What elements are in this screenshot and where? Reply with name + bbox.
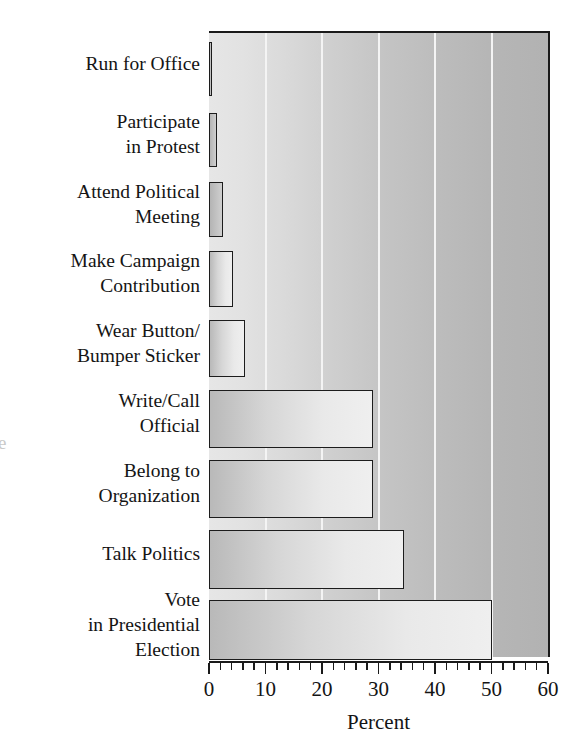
category-label-line: Participate	[0, 109, 200, 134]
x-tick-major	[208, 663, 210, 674]
bar	[209, 113, 217, 167]
x-tick-major	[434, 663, 436, 674]
x-tick-label: 0	[204, 676, 215, 702]
bar	[209, 600, 492, 660]
x-tick-label: 30	[368, 676, 389, 702]
category-label-line: Bumper Sticker	[0, 343, 200, 368]
gridline-40	[434, 33, 436, 657]
x-tick-minor	[231, 663, 233, 670]
category-label-line: Run for Office	[0, 51, 200, 76]
category-label: Belong toOrganization	[0, 458, 200, 508]
x-tick-minor	[479, 663, 481, 670]
x-tick-minor	[400, 663, 402, 670]
category-label: Participatein Protest	[0, 109, 200, 159]
category-label-line: in Presidential	[0, 612, 200, 637]
x-tick-major	[265, 663, 267, 674]
category-label-line: Organization	[0, 483, 200, 508]
category-label-line: Belong to	[0, 458, 200, 483]
x-tick-major	[378, 663, 380, 674]
category-label-line: Write/Call	[0, 388, 200, 413]
x-tick-label: 10	[255, 676, 276, 702]
category-label: Attend PoliticalMeeting	[0, 179, 200, 229]
x-tick-minor	[333, 663, 335, 670]
category-label-line: in Protest	[0, 134, 200, 159]
x-tick-minor	[253, 663, 255, 670]
x-tick-label: 50	[481, 676, 502, 702]
category-label-line: Contribution	[0, 273, 200, 298]
x-tick-minor	[412, 663, 414, 670]
category-label-line: Wear Button/	[0, 318, 200, 343]
x-axis-title: Percent	[0, 710, 573, 735]
x-tick-minor	[513, 663, 515, 670]
category-label: Run for Office	[0, 51, 200, 76]
x-tick-minor	[287, 663, 289, 670]
x-tick-label: 40	[425, 676, 446, 702]
x-tick-label: 60	[538, 676, 559, 702]
category-label: Wear Button/Bumper Sticker	[0, 318, 200, 368]
category-label: Write/CallOfficial	[0, 388, 200, 438]
category-label-line: Attend Political	[0, 179, 200, 204]
x-tick-major	[491, 663, 493, 674]
x-tick-minor	[502, 663, 504, 670]
x-tick-major	[321, 663, 323, 674]
bar	[209, 182, 223, 237]
x-tick-minor	[242, 663, 244, 670]
x-tick-label: 20	[312, 676, 333, 702]
bar	[209, 460, 373, 518]
x-tick-minor	[355, 663, 357, 670]
x-tick-minor	[457, 663, 459, 670]
category-label-line: Official	[0, 413, 200, 438]
bar	[209, 390, 373, 448]
x-tick-minor	[344, 663, 346, 670]
x-tick-minor	[299, 663, 301, 670]
x-tick-minor	[389, 663, 391, 670]
x-tick-minor	[446, 663, 448, 670]
plot-area	[209, 31, 550, 657]
bar	[209, 320, 245, 377]
x-axis-title-text: Percent	[347, 710, 410, 735]
x-tick-minor	[310, 663, 312, 670]
category-label: Votein PresidentialElection	[0, 587, 200, 662]
category-label: Make CampaignContribution	[0, 248, 200, 298]
category-label: Talk Politics	[0, 541, 200, 566]
bar	[209, 530, 404, 589]
x-tick-minor	[525, 663, 527, 670]
category-label-line: Election	[0, 637, 200, 662]
x-tick-major	[547, 663, 549, 674]
category-label-line: Vote	[0, 587, 200, 612]
x-tick-minor	[220, 663, 222, 670]
x-tick-minor	[423, 663, 425, 670]
category-label-line: Make Campaign	[0, 248, 200, 273]
bar	[209, 251, 233, 307]
category-label-line: Talk Politics	[0, 541, 200, 566]
gridline-50	[491, 33, 493, 657]
x-tick-minor	[468, 663, 470, 670]
x-tick-minor	[276, 663, 278, 670]
category-label-line: Meeting	[0, 204, 200, 229]
x-tick-minor	[536, 663, 538, 670]
bar	[209, 42, 212, 96]
x-tick-minor	[366, 663, 368, 670]
chart-root: e Run for OfficeParticipatein ProtestAtt…	[0, 0, 573, 752]
